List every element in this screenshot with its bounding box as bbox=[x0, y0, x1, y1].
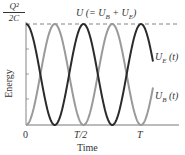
y-max-numerator: Q² bbox=[3, 2, 25, 13]
x-tick-T: T bbox=[137, 130, 143, 140]
total-energy-label: U (= UB + UE) bbox=[76, 8, 136, 21]
y-max-label: Q² 2C bbox=[3, 2, 25, 23]
ue-legend-label: UE (t) bbox=[155, 52, 178, 65]
y-max-denominator: 2C bbox=[3, 13, 25, 23]
total-label-prefix: U (= U bbox=[76, 7, 106, 18]
total-label-suffix: ) bbox=[133, 7, 136, 18]
ub-legend-label: UB (t) bbox=[155, 91, 178, 104]
ue-label-arg: (t) bbox=[167, 51, 179, 62]
x-tick-0: 0 bbox=[23, 130, 28, 140]
total-label-sub-b: B bbox=[106, 13, 110, 21]
total-label-mid: + U bbox=[112, 7, 128, 18]
x-axis-label: Time bbox=[77, 143, 98, 153]
x-tick-half: T/2 bbox=[74, 130, 87, 140]
ub-label-arg: (t) bbox=[167, 90, 179, 101]
y-axis-label: Energy bbox=[3, 69, 14, 98]
